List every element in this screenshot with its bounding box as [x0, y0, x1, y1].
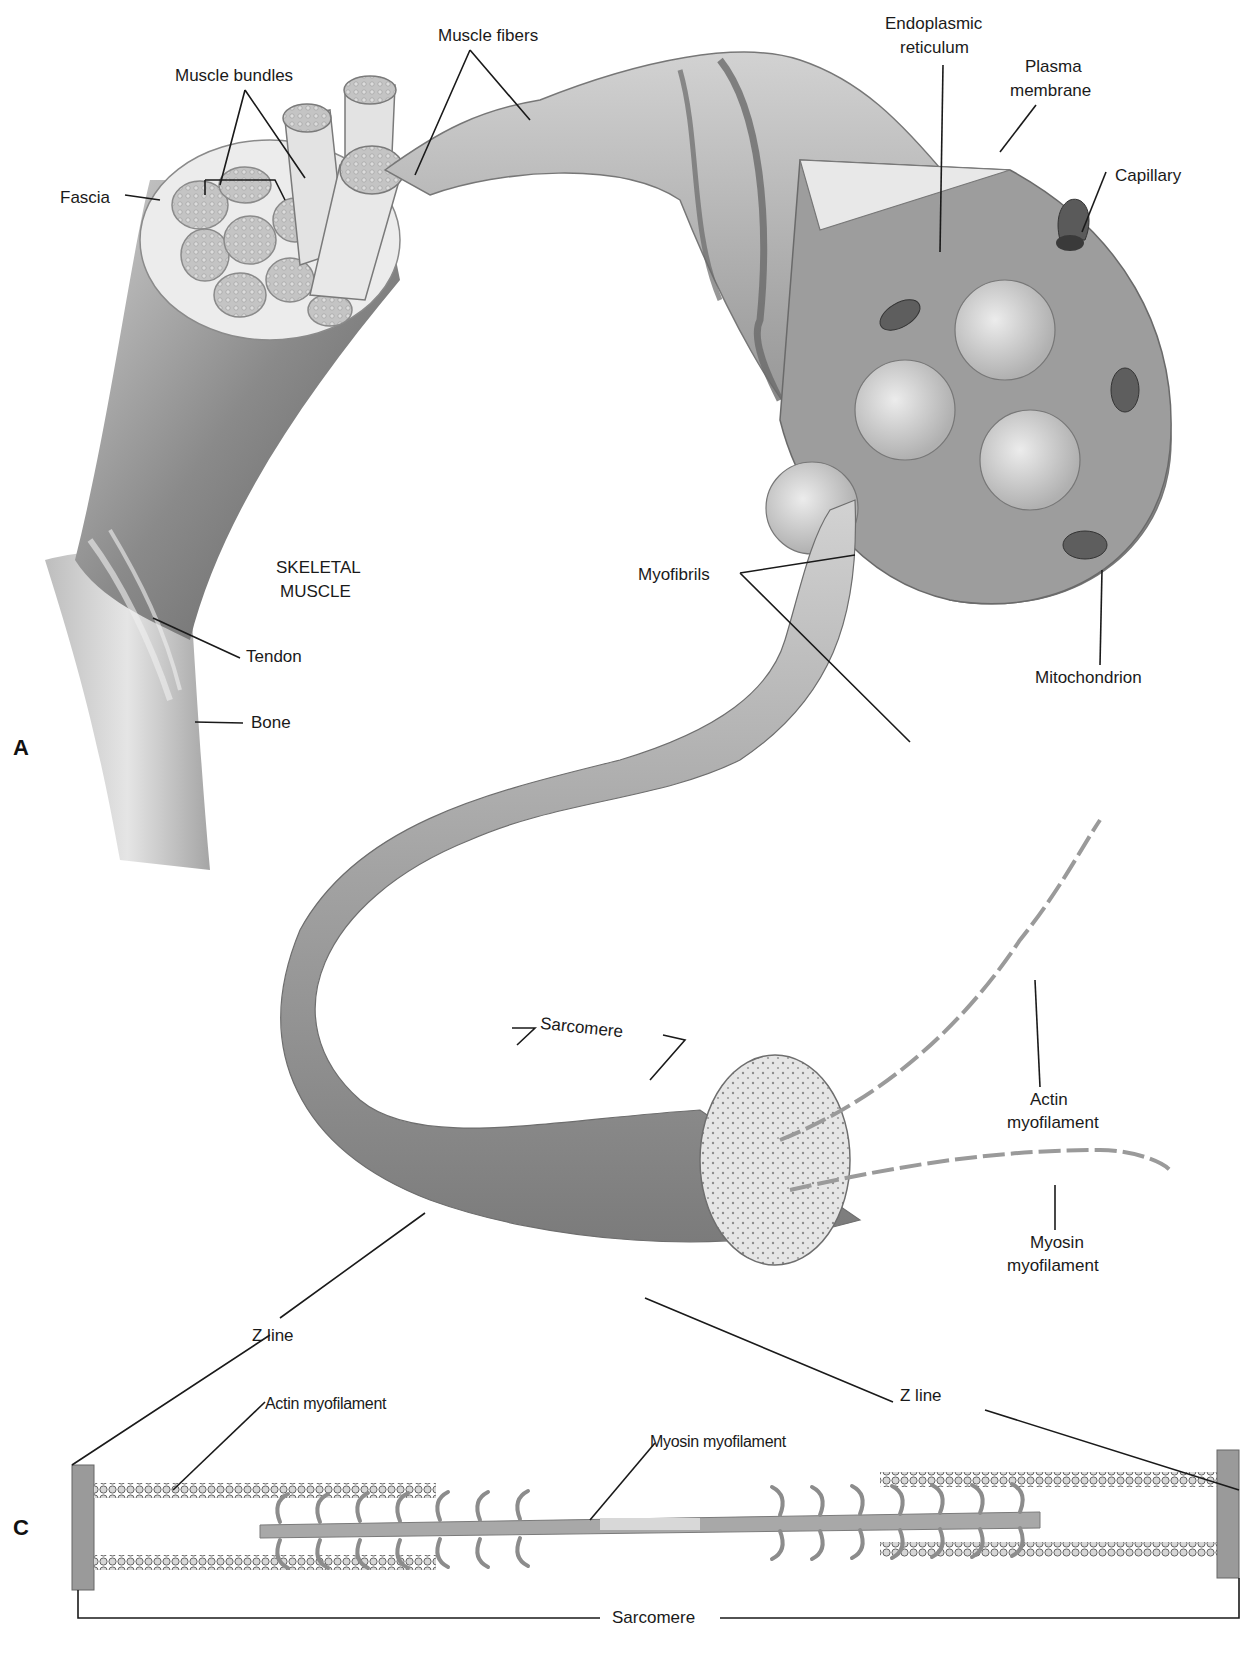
label-plasma-membrane-2: membrane	[1010, 81, 1091, 101]
label-endoplasmic-reticulum-2: reticulum	[900, 38, 969, 58]
label-skeletal-muscle-1: SKELETAL	[276, 558, 361, 578]
label-actin-myofilament-upper-1: Actin	[1030, 1090, 1068, 1110]
label-z-line-right: Z line	[900, 1386, 942, 1406]
label-actin-myofilament-upper-2: myofilament	[1007, 1113, 1099, 1133]
label-tendon: Tendon	[246, 647, 302, 667]
label-fascia: Fascia	[60, 188, 110, 208]
panel-letter-c: C	[13, 1515, 29, 1541]
actin-bottom-right	[880, 1542, 1217, 1557]
z-disc-left	[72, 1465, 94, 1590]
label-actin-myofilament-lower: Actin myofilament	[265, 1394, 386, 1414]
label-sarcomere-lower: Sarcomere	[612, 1608, 695, 1628]
label-capillary: Capillary	[1115, 166, 1181, 186]
skeletal-muscle-illustration	[0, 0, 1254, 1679]
z-disc-right	[1217, 1450, 1239, 1578]
label-endoplasmic-reticulum-1: Endoplasmic	[885, 14, 982, 34]
label-bone: Bone	[251, 713, 291, 733]
actin-bottom-left	[94, 1555, 436, 1570]
label-myosin-myofilament-lower: Myosin myofilament	[650, 1432, 786, 1452]
label-muscle-fibers: Muscle fibers	[438, 26, 538, 46]
sarcomere-diagram	[72, 1450, 1239, 1590]
label-mitochondrion: Mitochondrion	[1035, 668, 1142, 688]
label-myofibrils: Myofibrils	[638, 565, 710, 585]
label-plasma-membrane-1: Plasma	[1025, 57, 1082, 77]
actin-top-left	[94, 1483, 436, 1498]
label-muscle-bundles: Muscle bundles	[175, 66, 293, 86]
label-z-line-left: Z line	[252, 1326, 294, 1346]
label-myosin-myofilament-upper-2: myofilament	[1007, 1256, 1099, 1276]
myofibril-tube	[281, 500, 860, 1265]
panel-letter-a: A	[13, 735, 29, 761]
label-myosin-myofilament-upper-1: Myosin	[1030, 1233, 1084, 1253]
label-skeletal-muscle-2: MUSCLE	[280, 582, 351, 602]
